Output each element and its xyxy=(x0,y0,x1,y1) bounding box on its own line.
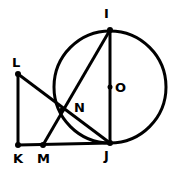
point-i xyxy=(107,27,113,33)
point-o xyxy=(108,85,113,90)
label-m: M xyxy=(37,151,50,166)
segment-kj xyxy=(18,143,110,145)
label-j: J xyxy=(103,148,109,163)
geometry-diagram: I O N L K M J xyxy=(0,0,175,172)
point-m xyxy=(40,142,46,148)
point-l xyxy=(15,71,21,77)
label-n: N xyxy=(74,100,85,115)
point-n xyxy=(60,108,65,113)
label-o: O xyxy=(115,80,126,95)
label-i: I xyxy=(104,6,109,21)
point-k xyxy=(15,142,21,148)
point-j xyxy=(107,140,113,146)
label-k: K xyxy=(13,151,24,166)
label-l: L xyxy=(12,55,20,70)
